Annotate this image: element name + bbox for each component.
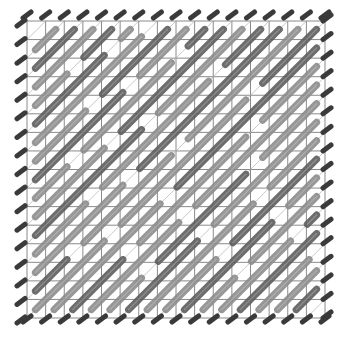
diagonal-stroke-highlight — [225, 29, 260, 64]
edge-mark — [247, 316, 255, 322]
edge-mark — [98, 12, 106, 18]
edge-mark — [323, 108, 331, 114]
edge-mark — [135, 12, 143, 18]
edge-mark — [17, 280, 25, 286]
edge-mark — [323, 182, 331, 188]
edge-mark — [323, 126, 331, 132]
edge-mark — [323, 145, 331, 151]
edge-mark — [228, 12, 236, 18]
edge-mark — [323, 52, 331, 58]
edge-mark — [302, 316, 310, 322]
edge-mark — [323, 219, 331, 225]
edge-mark — [98, 316, 106, 322]
edge-mark — [17, 206, 25, 212]
edge-mark — [135, 316, 143, 322]
edge-mark — [265, 12, 273, 18]
edge-mark — [323, 275, 331, 281]
edge-mark — [265, 316, 273, 322]
edge-mark — [17, 20, 25, 26]
edge-mark — [17, 150, 25, 156]
diagonal-stroke-highlight — [84, 156, 172, 243]
edge-mark — [17, 243, 25, 249]
edge-mark — [191, 12, 199, 18]
edge-mark — [247, 12, 255, 18]
diagonal-stroke-highlight — [188, 29, 205, 46]
edge-mark — [42, 316, 50, 322]
edge-mark — [17, 298, 25, 304]
diagonal-stroke-highlight — [91, 222, 179, 309]
edge-mark — [153, 12, 161, 18]
edge-mark — [209, 12, 217, 18]
edge-mark — [60, 316, 68, 322]
edge-mark — [17, 224, 25, 230]
edge-mark — [17, 131, 25, 137]
edge-mark — [191, 316, 199, 322]
edge-mark — [323, 201, 331, 207]
edge-mark — [17, 261, 25, 267]
edge-mark — [284, 316, 292, 322]
edge-mark — [17, 76, 25, 82]
edge-mark — [17, 169, 25, 175]
edge-mark — [323, 71, 331, 77]
edge-mark — [17, 39, 25, 45]
diagonal-stroke-highlight — [35, 92, 123, 179]
edge-mark — [17, 113, 25, 119]
edge-mark — [228, 316, 236, 322]
edge-mark — [17, 94, 25, 100]
cell-diagonal — [27, 21, 46, 40]
edge-mark — [116, 316, 124, 322]
edge-mark — [79, 316, 87, 322]
diagonal-stroke-highlight — [121, 100, 246, 224]
edge-mark — [116, 12, 124, 18]
edge-mark — [284, 12, 292, 18]
diagonal-stroke-highlight — [84, 63, 172, 150]
edge-mark — [79, 12, 87, 18]
edge-mark — [323, 238, 331, 244]
diagonal-stroke-highlight — [158, 174, 246, 261]
edge-mark — [153, 316, 161, 322]
edge-mark — [172, 316, 180, 322]
edge-mark — [302, 12, 310, 18]
edge-mark — [17, 57, 25, 63]
edge-mark — [323, 34, 331, 40]
diagonal-stroke-highlight — [35, 185, 123, 272]
edge-mark — [323, 164, 331, 170]
edge-mark — [60, 12, 68, 18]
edge-mark — [17, 187, 25, 193]
edge-mark — [323, 293, 331, 299]
edge-mark — [209, 316, 217, 322]
edge-mark — [42, 12, 50, 18]
edge-mark — [172, 12, 180, 18]
diagonal-stroke-highlight — [184, 222, 272, 309]
edge-mark — [323, 89, 331, 95]
grid-artwork — [0, 0, 345, 343]
edge-mark — [323, 256, 331, 262]
edge-mark — [23, 12, 31, 18]
